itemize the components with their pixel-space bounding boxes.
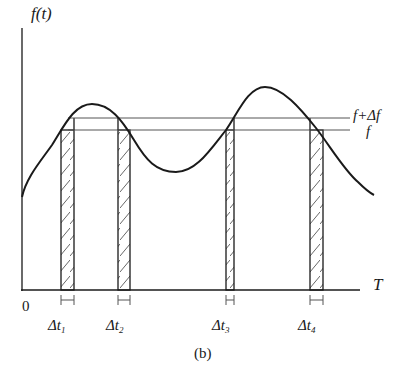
- strip-dt3: [226, 130, 234, 290]
- interval-label-dt4: Δt4: [298, 318, 315, 335]
- y-axis-label: f(t): [31, 5, 52, 22]
- marker-dt2: [118, 295, 130, 305]
- marker-dt1: [61, 295, 74, 305]
- origin-label: 0: [22, 299, 30, 314]
- interval-label-dt1: Δt1: [48, 318, 65, 335]
- level-label-f: f: [366, 124, 370, 139]
- marker-dt4: [310, 295, 323, 305]
- x-axis-label: T: [373, 276, 382, 293]
- strip-dt1: [61, 130, 74, 290]
- figure-canvas: f(t) T 0 f+Δf f Δt1 Δt2 Δt3 Δt4 (b): [0, 0, 408, 384]
- interval-label-dt3: Δt3: [212, 318, 229, 335]
- figure-caption: (b): [194, 346, 212, 361]
- strip-upper-edges: [74, 118, 310, 130]
- interval-markers: [61, 295, 323, 305]
- marker-dt3: [226, 295, 234, 305]
- hatched-strips: [61, 130, 323, 290]
- interval-label-dt2: Δt2: [106, 318, 123, 335]
- strip-dt4: [310, 130, 323, 290]
- level-label-f-plus-df: f+Δf: [353, 108, 380, 123]
- strip-dt2: [118, 130, 130, 290]
